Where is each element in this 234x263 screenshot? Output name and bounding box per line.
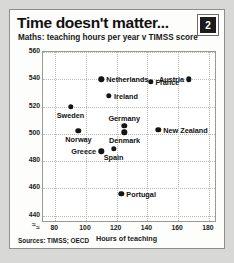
y-tick-label: 520	[12, 102, 40, 109]
data-point-label: France	[156, 78, 180, 87]
source-note: Sources: TIMSS; OECD	[18, 237, 89, 244]
y-tick-label: 460	[12, 183, 40, 190]
data-point[interactable]	[148, 79, 153, 84]
data-point[interactable]	[99, 77, 104, 82]
gridline-vertical	[55, 52, 56, 221]
data-point-label: Portugal	[126, 190, 156, 199]
y-tick-label: 560	[12, 47, 40, 54]
y-tick-label: 480	[12, 156, 40, 163]
badge-number: 2	[198, 15, 218, 35]
gridline-vertical	[209, 52, 210, 221]
gridline-horizontal	[43, 216, 215, 217]
x-axis-break-symbol: ≈	[36, 224, 40, 231]
x-tick-label: 100	[73, 224, 97, 231]
y-tick-label: 540	[12, 74, 40, 81]
y-tick-label: 440	[12, 211, 40, 218]
x-tick-label: 120	[104, 224, 128, 231]
data-point[interactable]	[186, 77, 191, 82]
data-point-label: Spain	[104, 153, 124, 162]
data-point-label: Norway	[65, 135, 91, 144]
chart-figure: Time doesn't matter... 2 Maths: teaching…	[9, 9, 225, 249]
data-point[interactable]	[122, 123, 127, 128]
data-point[interactable]	[155, 127, 160, 132]
y-axis-tick-labels: 440460480500520540560≈	[10, 10, 40, 240]
data-point[interactable]	[68, 104, 73, 109]
data-point-label: Greece	[71, 147, 96, 156]
x-tick-label: 80	[42, 224, 66, 231]
data-point-label: Sweden	[57, 111, 85, 120]
gridline-horizontal	[43, 161, 215, 162]
data-point[interactable]	[111, 146, 116, 151]
x-tick-label: 160	[165, 224, 189, 231]
x-tick-label: 180	[196, 224, 220, 231]
data-point-label: Netherlands	[106, 75, 148, 84]
data-point[interactable]	[106, 93, 111, 98]
x-tick-label: 140	[134, 224, 158, 231]
chart-subtitle: Maths: teaching hours per year v TIMSS s…	[18, 33, 198, 42]
y-tick-label: 500	[12, 129, 40, 136]
x-axis-title: Hours of teaching	[96, 234, 157, 243]
plot-area: NetherlandsAustriaIrelandFranceSwedenGer…	[42, 51, 216, 222]
data-point-label: New Zealand	[163, 126, 208, 135]
data-point-label: Denmark	[109, 136, 140, 145]
data-point-label: Germany	[108, 114, 140, 123]
data-point-label: Ireland	[114, 92, 138, 101]
gridline-horizontal	[43, 52, 215, 53]
data-point[interactable]	[119, 191, 124, 196]
